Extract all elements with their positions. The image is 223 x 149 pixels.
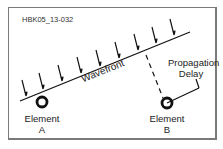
element-a-icon: [37, 97, 47, 107]
propagation-delay-label: Propagation Delay: [168, 57, 214, 79]
incoming-ray-arrows: [22, 19, 174, 96]
propagation-delay-line1: Propagation: [168, 57, 214, 68]
propagation-delay-line2: Delay: [168, 68, 214, 79]
arrowheads: [25, 31, 176, 97]
delay-tick-mark: [196, 79, 199, 88]
element-b-line1: Element: [147, 113, 187, 124]
element-b-label: Element B: [147, 113, 187, 135]
element-a-line1: Element: [22, 113, 62, 124]
wavefront-label: Wavefront: [80, 57, 126, 84]
element-b-line2: B: [147, 124, 187, 135]
element-a-label: Element A: [22, 113, 62, 135]
propagation-dashed-line: [146, 55, 163, 98]
element-a-line2: A: [22, 124, 62, 135]
